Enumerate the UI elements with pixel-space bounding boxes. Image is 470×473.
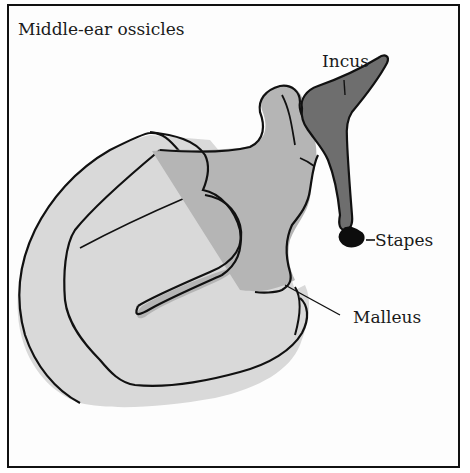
ossicles-diagram: Middle-ear ossicles Incus Stapes Malleus <box>0 0 470 473</box>
label-malleus: Malleus <box>353 307 421 327</box>
diagram-title: Middle-ear ossicles <box>18 19 184 39</box>
stapes-shape <box>339 227 375 247</box>
label-stapes: Stapes <box>375 230 433 250</box>
label-incus: Incus <box>322 51 369 71</box>
